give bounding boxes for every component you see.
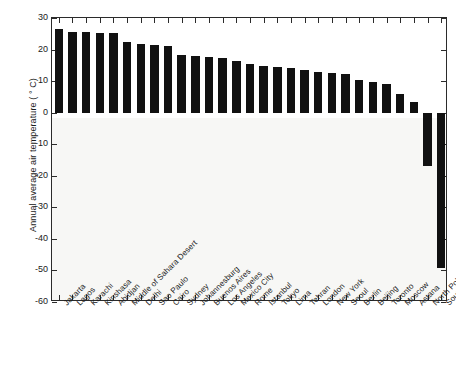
x-tick-mirror	[141, 18, 142, 23]
y-tick-label: 10	[8, 75, 48, 85]
bar	[55, 29, 63, 113]
x-tick-mirror	[209, 18, 210, 23]
y-tick: -20	[52, 176, 57, 177]
x-tick-label: Seoul	[349, 301, 355, 307]
x-tick-label: Moscow	[403, 301, 409, 307]
x-tick-mirror	[373, 18, 374, 23]
x-tick-label: Astana	[417, 301, 423, 307]
x-tick-mirror	[346, 18, 347, 23]
x-tick-mirror	[264, 18, 265, 23]
y-tick-label: -50	[8, 264, 48, 274]
bar	[82, 32, 90, 113]
x-tick-label: Rome	[253, 301, 259, 307]
bar	[437, 113, 445, 269]
x-tick-label: Beijing	[376, 301, 382, 307]
bar	[123, 42, 131, 113]
bar	[191, 56, 199, 112]
x-tick-label: Buenos Aires	[212, 301, 218, 307]
x-tick-label: Lagos	[75, 301, 81, 307]
x-tick-mirror	[305, 18, 306, 23]
bar	[410, 102, 418, 113]
x-tick-label: Berlin	[362, 301, 368, 307]
y-tick-mirror	[441, 81, 446, 82]
x-tick-label: Lima	[294, 301, 300, 307]
bar	[287, 68, 295, 113]
y-tick-mirror	[441, 50, 446, 51]
bar	[328, 73, 336, 113]
x-tick-mirror	[387, 18, 388, 23]
x-tick-label: Cairo	[171, 301, 177, 307]
bar	[150, 45, 158, 112]
y-tick: 30	[52, 18, 57, 19]
x-axis-tick-labels: JakartaLagosKarachiKinshasaAbidjanMiddle…	[51, 301, 447, 382]
bar	[314, 72, 322, 113]
bar	[273, 67, 281, 113]
bar	[232, 61, 240, 113]
x-tick-label: Tokyo	[280, 301, 286, 307]
x-tick-mirror	[441, 18, 442, 23]
x-tick-mirror	[236, 18, 237, 23]
y-tick-mirror	[441, 270, 446, 271]
x-tick-label: South Pole	[444, 301, 450, 307]
y-tick-label: 20	[8, 44, 48, 54]
bar	[259, 66, 267, 112]
x-tick-mirror	[332, 18, 333, 23]
bar	[341, 74, 349, 112]
y-tick: 0	[52, 113, 57, 114]
x-tick-label: London	[321, 301, 327, 307]
x-tick-label: North Pole	[431, 301, 437, 307]
x-tick-mirror	[359, 18, 360, 23]
plot-area: 3020100-10-20-30-40-50-60	[51, 17, 447, 301]
x-tick-mirror	[154, 18, 155, 23]
x-tick-mirror	[182, 18, 183, 23]
bar	[177, 55, 185, 113]
y-tick: -10	[52, 144, 57, 145]
x-tick-mirror	[291, 18, 292, 23]
bar	[205, 57, 213, 112]
y-tick: -30	[52, 207, 57, 208]
y-tick-label: -30	[8, 201, 48, 211]
chart-figure: Annual average air temperature ( ° C) 30…	[0, 0, 456, 382]
x-tick-label: Johannesburg	[198, 301, 204, 307]
x-tick-label: Karachi	[89, 301, 95, 307]
bar	[355, 80, 363, 113]
bar	[246, 64, 254, 112]
x-tick-label: Middle of Sahara Desert	[130, 301, 136, 307]
y-tick-label: -40	[8, 233, 48, 243]
bar	[68, 32, 76, 113]
x-tick-label: Toronto	[390, 301, 396, 307]
x-tick-label: Sydney	[185, 301, 191, 307]
x-tick-mirror	[113, 18, 114, 23]
x-tick-mirror	[86, 18, 87, 23]
x-tick-label: Jakarta	[62, 301, 68, 307]
bar	[137, 44, 145, 113]
x-tick-label: Kinshasa	[103, 301, 109, 307]
x-tick-mirror	[400, 18, 401, 23]
bar	[218, 58, 226, 112]
x-tick-mirror	[318, 18, 319, 23]
bar	[369, 82, 377, 113]
y-tick: -50	[52, 270, 57, 271]
x-tick-label: Abidjan	[116, 301, 122, 307]
x-tick-mirror	[127, 18, 128, 23]
y-tick: -40	[52, 239, 57, 240]
bar	[109, 33, 117, 113]
x-tick-label: Los Angeles	[226, 301, 232, 307]
bar	[382, 84, 390, 113]
x-tick-mirror	[250, 18, 251, 23]
x-tick-mirror	[59, 18, 60, 23]
y-tick-label: -10	[8, 138, 48, 148]
y-tick-label: -60	[8, 296, 48, 306]
x-tick-mirror	[100, 18, 101, 23]
x-tick-mirror	[168, 18, 169, 23]
y-tick-label: 30	[8, 12, 48, 22]
x-tick-label: Mexico City	[239, 301, 245, 307]
y-tick-label: 0	[8, 107, 48, 117]
bar	[164, 46, 172, 113]
bar	[96, 33, 104, 113]
x-tick	[59, 295, 60, 300]
bar	[300, 70, 308, 113]
x-tick-mirror	[277, 18, 278, 23]
x-tick-mirror	[223, 18, 224, 23]
x-tick-mirror	[428, 18, 429, 23]
